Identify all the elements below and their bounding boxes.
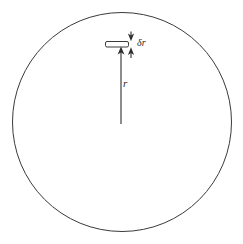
radial-element-rect (106, 42, 129, 48)
thickness-label: δr (137, 38, 146, 48)
radius-label: r (123, 78, 127, 89)
figure-canvas: r δr (0, 0, 243, 244)
diagram-svg (0, 0, 243, 244)
circle-outline (13, 13, 232, 232)
